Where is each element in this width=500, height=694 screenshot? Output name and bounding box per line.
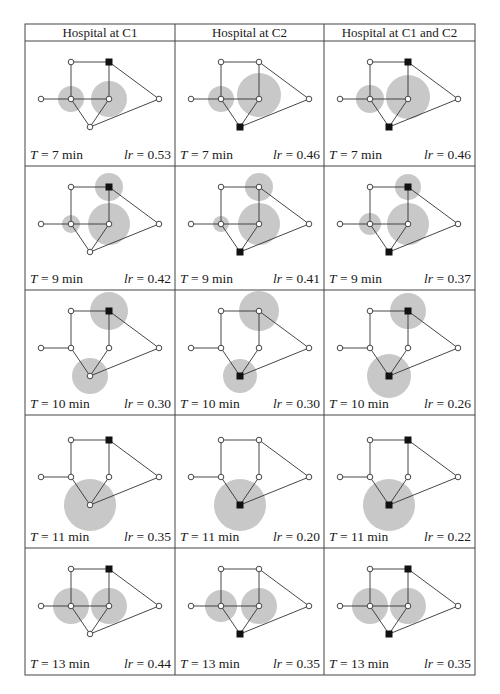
loss-ratio-caption: lr = 0.42 (75, 271, 171, 287)
graph-node-icon (306, 603, 312, 609)
graph-node-icon (256, 184, 262, 190)
graph-node-icon (256, 566, 262, 572)
graph-edge (240, 348, 309, 376)
hospital-node-icon (386, 249, 393, 256)
graph-node-icon (156, 96, 162, 102)
graph-node-icon (38, 221, 44, 227)
graph-node-icon (68, 603, 74, 609)
loss-ratio-caption: lr = 0.35 (375, 656, 471, 672)
graph-node-icon (188, 603, 194, 609)
graph-node-icon (455, 603, 461, 609)
graph-node-icon (106, 221, 112, 227)
graph-node-icon (455, 474, 461, 480)
graph-node-icon (156, 221, 162, 227)
hospital-node-icon (237, 249, 244, 256)
graph-node-icon (87, 249, 93, 255)
graph-node-icon (256, 221, 262, 227)
graph-node-icon (87, 124, 93, 130)
graph-node-icon (337, 221, 343, 227)
loss-ratio-caption: lr = 0.22 (375, 529, 471, 545)
graph-node-icon (367, 96, 373, 102)
graph-node-icon (218, 308, 224, 314)
graph-node-icon (218, 184, 224, 190)
graph-node-icon (367, 437, 373, 443)
hospital-node-icon (386, 124, 393, 131)
loss-ratio-caption: lr = 0.30 (224, 396, 320, 412)
graph-node-icon (306, 96, 312, 102)
graph-node-icon (188, 345, 194, 351)
graph-node-icon (405, 96, 411, 102)
hospital-coverage-figure (0, 0, 500, 694)
graph-node-icon (188, 474, 194, 480)
hospital-node-icon (237, 124, 244, 131)
graph-node-icon (38, 96, 44, 102)
hospital-node-icon (106, 437, 113, 444)
graph-node-icon (87, 631, 93, 637)
graph-node-icon (156, 474, 162, 480)
graph-node-icon (367, 308, 373, 314)
graph-edge (109, 440, 159, 477)
column-header: Hospital at C1 and C2 (324, 24, 475, 41)
loss-ratio-caption: lr = 0.41 (224, 271, 320, 287)
graph-node-icon (367, 603, 373, 609)
graph-node-icon (455, 221, 461, 227)
graph-node-icon (106, 474, 112, 480)
loss-ratio-caption: lr = 0.46 (375, 147, 471, 163)
graph-node-icon (218, 474, 224, 480)
graph-node-icon (405, 603, 411, 609)
hospital-node-icon (386, 373, 393, 380)
hospital-node-icon (405, 566, 412, 573)
graph-node-icon (38, 603, 44, 609)
graph-node-icon (68, 221, 74, 227)
column-header: Hospital at C2 (175, 24, 324, 41)
graph-node-icon (367, 566, 373, 572)
hospital-node-icon (405, 184, 412, 191)
graph-node-icon (367, 59, 373, 65)
graph-node-icon (256, 345, 262, 351)
graph-node-icon (38, 474, 44, 480)
graph-node-icon (256, 603, 262, 609)
loss-ratio-caption: lr = 0.35 (224, 656, 320, 672)
graph-node-icon (68, 474, 74, 480)
graph-node-icon (218, 96, 224, 102)
graph-node-icon (337, 96, 343, 102)
hospital-node-icon (106, 566, 113, 573)
graph-node-icon (367, 184, 373, 190)
graph-node-icon (337, 345, 343, 351)
graph-node-icon (337, 474, 343, 480)
loss-ratio-caption: lr = 0.46 (224, 147, 320, 163)
graph-node-icon (405, 345, 411, 351)
graph-node-icon (188, 96, 194, 102)
graph-node-icon (218, 566, 224, 572)
graph-edge (408, 311, 458, 348)
graph-node-icon (68, 184, 74, 190)
hospital-node-icon (405, 437, 412, 444)
graph-node-icon (106, 603, 112, 609)
graph-node-icon (306, 474, 312, 480)
loss-ratio-caption: lr = 0.37 (375, 271, 471, 287)
graph-node-icon (87, 373, 93, 379)
graph-edge (221, 224, 240, 252)
column-header: Hospital at C1 (25, 24, 175, 41)
graph-node-icon (87, 502, 93, 508)
graph-node-icon (367, 474, 373, 480)
graph-node-icon (256, 437, 262, 443)
graph-node-icon (156, 603, 162, 609)
graph-node-icon (367, 345, 373, 351)
graph-node-icon (218, 59, 224, 65)
graph-node-icon (405, 474, 411, 480)
loss-ratio-caption: lr = 0.30 (75, 396, 171, 412)
graph-edge (71, 224, 90, 252)
loss-ratio-caption: lr = 0.26 (375, 396, 471, 412)
graph-node-icon (106, 345, 112, 351)
loss-ratio-caption: lr = 0.35 (75, 529, 171, 545)
graph-node-icon (68, 345, 74, 351)
hospital-node-icon (237, 502, 244, 509)
hospital-node-icon (386, 631, 393, 638)
graph-edge (109, 311, 159, 348)
graph-node-icon (68, 308, 74, 314)
hospital-node-icon (386, 502, 393, 509)
loss-ratio-caption: lr = 0.20 (224, 529, 320, 545)
graph-edge (408, 440, 458, 477)
graph-node-icon (68, 96, 74, 102)
